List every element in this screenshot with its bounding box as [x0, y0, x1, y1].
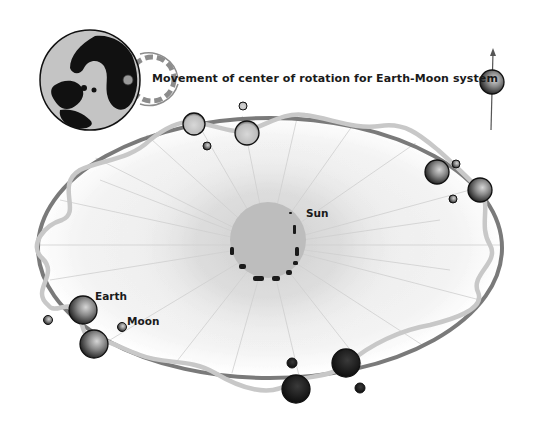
earth-label: Earth — [95, 290, 127, 302]
earth-top-left — [183, 113, 205, 135]
earth-left-2 — [80, 330, 108, 358]
orbit-diagram — [0, 0, 539, 427]
moon-label: Moon — [127, 315, 159, 327]
earth-right-1 — [425, 160, 449, 184]
caption-text: Movement of center of rotation for Earth… — [152, 72, 498, 85]
earth-bottom-1 — [282, 375, 310, 403]
earth-bottom-2 — [332, 349, 360, 377]
earth-top-middle — [235, 121, 259, 145]
earth-right-2 — [468, 178, 492, 202]
sun-label: Sun — [306, 207, 329, 219]
barycenter-symbol — [480, 48, 504, 130]
barycenter-dot — [123, 75, 133, 85]
earth-left-1 — [69, 296, 97, 324]
